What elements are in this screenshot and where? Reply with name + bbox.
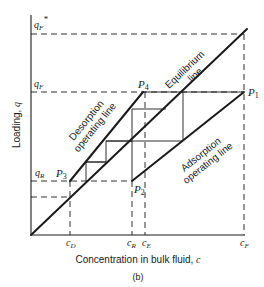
figure-caption: (b) [133,272,144,282]
axes [31,15,245,235]
x-axis-title: Concentration in bulk fluid, c [75,254,201,265]
cF-label: cF [240,237,249,250]
P1-label: P1 [247,86,259,100]
main-lines [31,29,247,235]
cD-label: cD [66,237,76,250]
qF-label: qF [34,78,44,91]
adsorption-desorption-diagram: Equilibrium line Desorption operating li… [0,0,264,287]
y-tick-labels: qF* qF qR [34,14,48,180]
equilibrium-line [31,29,247,235]
P3-label: P3 [55,167,67,181]
y-axis-title: Loading, q [11,102,22,148]
cR-label: cR [127,237,136,250]
cE-label: cE [142,237,151,250]
equilibrium-label: Equilibrium line [163,48,214,98]
desorption-label: Desorption operating line [63,93,118,154]
P2-label: P2 [133,183,145,197]
P4-label: P4 [137,78,149,92]
x-tick-labels: cD cR cE cF [66,237,249,250]
qF-star-label: qF* [34,14,48,32]
qR-label: qR [35,167,45,180]
